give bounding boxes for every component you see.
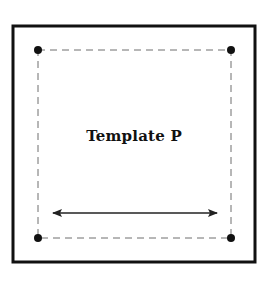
corner-dot-bottom-right [227,234,235,242]
corner-dot-top-right [227,46,235,54]
template-label: Template P [0,127,268,145]
corner-dot-top-left [34,46,42,54]
template-diagram [0,0,268,290]
corner-dot-bottom-left [34,234,42,242]
